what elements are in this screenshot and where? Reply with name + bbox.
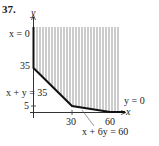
y-axis-label: y	[31, 8, 35, 18]
feasible-region	[35, 27, 119, 112]
constraint-label-x-plus-6y-eq-60: x + 6y = 60	[82, 127, 128, 137]
y-tick-label-5: 5	[24, 101, 29, 111]
constraint-label-y-eq-0: y = 0	[124, 96, 145, 106]
x-tick-label-30: 30	[66, 117, 76, 127]
problem-number: 37.	[2, 4, 16, 15]
constraint-label-x-plus-y-eq-35: x + y = 35	[6, 88, 47, 98]
x-axis-label: x	[126, 107, 130, 117]
y-tick-label-35: 35	[20, 61, 30, 71]
constraint-label-x-eq-0: x = 0	[9, 29, 30, 39]
feasible-region-graph	[0, 0, 159, 146]
